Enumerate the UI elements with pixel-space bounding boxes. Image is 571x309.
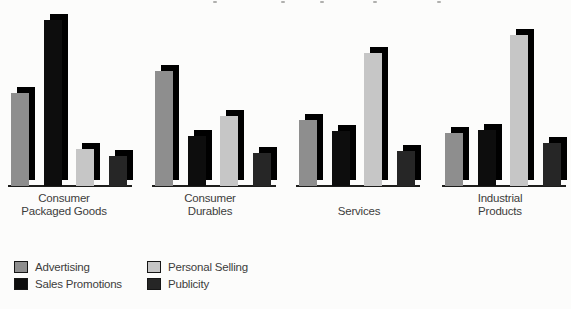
bar-sales-promotions-consumer-packaged-goods [44,14,68,186]
legend-item-publicity: Publicity [147,278,248,290]
category-label-line: Services [338,205,381,218]
publicity-swatch [147,278,161,290]
bar-advertising-consumer-packaged-goods [11,87,35,186]
category-label-services: Services [294,191,424,218]
category-label-consumer-packaged-goods: Consumer Packaged Goods [0,191,129,218]
bar-face [299,120,317,186]
bar-personal-selling-consumer-durables [220,110,244,186]
bar-face [155,71,173,186]
bar-face [364,53,382,186]
legend-column-1: Advertising Sales Promotions [14,261,122,290]
legend-label-advertising: Advertising [35,261,90,273]
bar-face [188,136,206,186]
bar-personal-selling-consumer-packaged-goods [76,143,100,186]
legend-item-advertising: Advertising [14,261,122,273]
bar-face [11,93,29,186]
category-label-line: Durables [188,205,232,218]
bar-group-consumer-packaged-goods [8,0,132,187]
bar-face [478,130,496,186]
category-label-line: Consumer [38,192,89,205]
bar-advertising-consumer-durables [155,65,179,186]
bar-personal-selling-industrial-products [510,29,534,186]
bar-personal-selling-services [364,47,388,186]
bar-group-industrial-products [442,0,566,187]
bar-publicity-consumer-packaged-goods [109,150,133,186]
bar-publicity-services [397,145,421,186]
bar-face [543,143,561,186]
bar-face [76,149,94,186]
bar-advertising-services [299,114,323,186]
bar-face [510,35,528,186]
legend-item-personal-selling: Personal Selling [147,261,248,273]
bar-group-consumer-durables [152,0,276,187]
bar-face [397,151,415,186]
category-label-line: Packaged Goods [21,205,106,218]
bar-advertising-industrial-products [445,127,469,186]
legend-label-personal-selling: Personal Selling [168,261,248,273]
bar-sales-promotions-consumer-durables [188,130,212,186]
category-label-line: Products [478,205,522,218]
legend-label-sales-promotions: Sales Promotions [35,278,122,290]
bar-group-services [296,0,420,187]
bar-face [253,153,271,186]
legend-column-2: Personal Selling Publicity [147,261,248,290]
category-label-line: Consumer [184,192,235,205]
legend-item-sales-promotions: Sales Promotions [14,278,122,290]
bar-sales-promotions-industrial-products [478,124,502,186]
bar-face [332,131,350,186]
chart-plot-area: Consumer Packaged Goods Consumer Durable… [0,0,571,230]
bar-face [44,20,62,186]
category-label-industrial-products: Industrial Products [435,191,565,218]
legend-label-publicity: Publicity [168,278,209,290]
bar-publicity-consumer-durables [253,147,277,186]
sales-promotions-swatch [14,278,28,290]
category-label-consumer-durables: Consumer Durables [145,191,275,218]
advertising-swatch [14,261,28,273]
personal-selling-swatch [147,261,161,273]
bar-face [220,116,238,186]
scanned-bar-chart-figure: Consumer Packaged Goods Consumer Durable… [0,0,571,309]
bar-publicity-industrial-products [543,137,567,186]
bar-sales-promotions-services [332,125,356,186]
bar-face [445,133,463,186]
category-label-line: Industrial [478,192,523,205]
bar-face [109,156,127,186]
